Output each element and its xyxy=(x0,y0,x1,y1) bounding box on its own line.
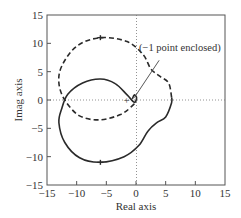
y-axis-label: Imag axis xyxy=(12,78,24,121)
y-tick-label: 0 xyxy=(38,94,44,106)
y-tick-label: 5 xyxy=(38,66,44,78)
y-tick-label: 15 xyxy=(32,9,44,21)
x-axis-ticks xyxy=(77,181,196,185)
x-tick-label: 15 xyxy=(220,187,232,199)
y-tick-label: −5 xyxy=(31,122,43,134)
critical-point-marker: + xyxy=(123,94,129,106)
x-tick-label: 0 xyxy=(133,187,139,199)
x-axis-label: Real axis xyxy=(116,200,157,212)
x-tick-label: 5 xyxy=(163,187,169,199)
y-tick-label: −15 xyxy=(26,179,44,191)
x-tick-label: 10 xyxy=(190,187,202,199)
x-axis-tick-labels: −15−10−5051015 xyxy=(38,187,231,199)
x-tick-label: −5 xyxy=(100,187,112,199)
y-tick-label: −10 xyxy=(26,151,44,163)
x-tick-label: −10 xyxy=(68,187,86,199)
y-axis-ticks xyxy=(47,43,51,156)
annotation-arrow xyxy=(134,60,159,97)
y-tick-label: 10 xyxy=(32,37,44,49)
solid-nyquist-curve xyxy=(59,79,172,162)
annotation-text: (−1 point enclosed) xyxy=(139,42,221,54)
y-axis-tick-labels: −15−10−5051015 xyxy=(26,9,44,191)
nyquist-plot: −15−10−5051015 −15−10−5051015 + (−1 poin… xyxy=(0,0,241,218)
